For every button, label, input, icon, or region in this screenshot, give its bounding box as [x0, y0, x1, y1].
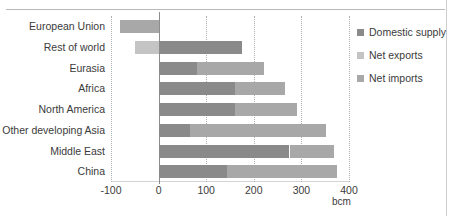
bar-segment[interactable]: [235, 103, 297, 116]
right-divider: [446, 0, 447, 216]
legend-label: Net exports: [369, 49, 423, 61]
top-divider: [6, 9, 445, 10]
y-axis-label: Middle East: [0, 141, 105, 162]
x-axis-tick-label: -100: [100, 184, 121, 196]
bar-segment[interactable]: [159, 124, 190, 137]
bar-segment[interactable]: [159, 41, 242, 54]
legend-item[interactable]: Net imports: [357, 72, 446, 84]
bar-segment[interactable]: [159, 165, 227, 178]
x-axis-labels: -1000100200300400: [111, 184, 349, 198]
x-axis-tick-label: 400: [340, 184, 358, 196]
y-axis-label: Rest of world: [0, 37, 105, 58]
stacked-bar[interactable]: [111, 62, 349, 75]
bar-row[interactable]: [111, 16, 349, 37]
bar-row[interactable]: [111, 161, 349, 182]
stacked-bar[interactable]: [111, 103, 349, 116]
bar-row[interactable]: [111, 78, 349, 99]
legend-item[interactable]: Domestic supply: [357, 26, 446, 38]
legend-swatch-icon: [357, 29, 364, 36]
bar-segment[interactable]: [159, 62, 197, 75]
stacked-bar[interactable]: [111, 41, 349, 54]
bar-segment[interactable]: [159, 82, 235, 95]
x-axis-tick-label: 200: [245, 184, 263, 196]
plot-area: [111, 16, 349, 182]
y-axis-label: Africa: [0, 78, 105, 99]
legend-item[interactable]: Net exports: [357, 49, 446, 61]
x-axis-unit-label: bcm: [332, 196, 351, 207]
x-axis-tick-label: 300: [293, 184, 311, 196]
bar-segment[interactable]: [190, 124, 327, 137]
y-axis-label: North America: [0, 99, 105, 120]
bar-segment[interactable]: [159, 103, 235, 116]
stacked-bar[interactable]: [111, 20, 349, 33]
bar-row[interactable]: [111, 141, 349, 162]
bar-row[interactable]: [111, 99, 349, 120]
legend-swatch-icon: [357, 75, 364, 82]
legend-label: Net imports: [369, 72, 423, 84]
bar-row[interactable]: [111, 120, 349, 141]
bar-segment[interactable]: [227, 165, 337, 178]
bar-segment[interactable]: [235, 82, 285, 95]
legend-swatch-icon: [357, 52, 364, 59]
y-axis-labels: European UnionRest of worldEurasiaAfrica…: [0, 16, 105, 182]
stacked-bar[interactable]: [111, 82, 349, 95]
bar-segment[interactable]: [159, 145, 290, 158]
x-axis-tick-label: 100: [197, 184, 215, 196]
bar-row[interactable]: [111, 58, 349, 79]
y-axis-label: Other developing Asia: [0, 120, 105, 141]
bar-segment[interactable]: [290, 145, 334, 158]
legend-label: Domestic supply: [369, 26, 446, 38]
bar-row[interactable]: [111, 37, 349, 58]
bar-segment[interactable]: [197, 62, 265, 75]
stacked-bar[interactable]: [111, 165, 349, 178]
chart-legend: Domestic supplyNet exportsNet imports: [357, 26, 446, 84]
gridline-400: [349, 16, 351, 182]
bar-segment[interactable]: [120, 20, 159, 33]
y-axis-label: China: [0, 161, 105, 182]
stacked-bar[interactable]: [111, 124, 349, 137]
y-axis-label: Eurasia: [0, 58, 105, 79]
x-axis-tick-label: 0: [156, 184, 162, 196]
stacked-bar[interactable]: [111, 145, 349, 158]
bar-segment[interactable]: [135, 41, 159, 54]
y-axis-label: European Union: [0, 16, 105, 37]
bar-chart: European UnionRest of worldEurasiaAfrica…: [0, 0, 449, 216]
